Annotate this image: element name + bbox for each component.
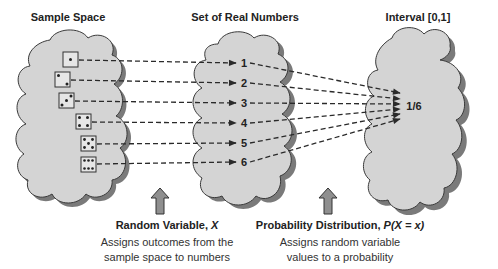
up-arrow-icon bbox=[319, 188, 337, 214]
die-5 bbox=[81, 136, 96, 151]
probability-distribution-caption: Probability Distribution, P(X = x) Assig… bbox=[256, 218, 424, 265]
real-number-1: 1 bbox=[241, 57, 247, 69]
real-number-4: 4 bbox=[241, 117, 247, 129]
interval-title: Interval [0,1] bbox=[386, 11, 451, 23]
random-variable-description: Assigns outcomes from the sample space t… bbox=[101, 235, 234, 265]
random-variable-caption: Random Variable, X Assigns outcomes from… bbox=[101, 218, 234, 265]
real-number-5: 5 bbox=[241, 137, 247, 149]
die-3 bbox=[59, 93, 74, 108]
real-numbers-title: Set of Real Numbers bbox=[191, 11, 299, 23]
probability-distribution-description: Assigns random variable values to a prob… bbox=[256, 235, 424, 265]
real-number-6: 6 bbox=[241, 156, 247, 168]
sample-space-title: Sample Space bbox=[31, 11, 106, 23]
die-6 bbox=[81, 157, 96, 172]
probability-distribution-heading: Probability Distribution, P(X = x) bbox=[256, 218, 424, 232]
probability-value: 1/6 bbox=[406, 100, 421, 112]
die-1 bbox=[63, 52, 78, 67]
die-2 bbox=[55, 72, 70, 87]
real-number-2: 2 bbox=[241, 77, 247, 89]
random-variable-heading: Random Variable, X bbox=[101, 218, 234, 232]
die-4 bbox=[76, 114, 91, 129]
interval-cloud bbox=[363, 28, 469, 215]
real-number-3: 3 bbox=[241, 97, 247, 109]
up-arrow-icon bbox=[151, 188, 169, 214]
